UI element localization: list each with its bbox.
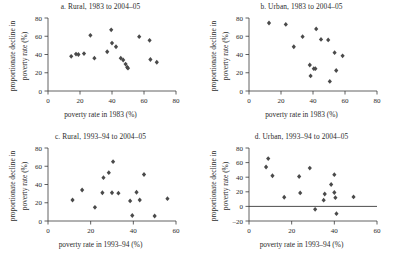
- panel-a-rural-1983: a. Rural, 1983 to 2004–05 proportionate …: [0, 0, 201, 130]
- svg-text:40: 40: [310, 97, 318, 105]
- panel-c-plot-area: 80 60 40 20 0 0 20 40 60: [0, 130, 201, 245]
- data-point-marker: [114, 44, 118, 49]
- data-point-marker: [267, 21, 271, 26]
- data-point-marker: [107, 170, 111, 175]
- svg-text:0: 0: [247, 97, 251, 105]
- data-point-marker: [323, 192, 327, 197]
- svg-text:0: 0: [240, 203, 244, 211]
- svg-text:0: 0: [247, 227, 251, 235]
- panel-b-axes: 80 60 40 20 0 0 20 40 60 80: [236, 15, 381, 106]
- data-point-marker: [309, 74, 313, 79]
- svg-text:80: 80: [35, 145, 43, 153]
- svg-text:20: 20: [288, 227, 296, 235]
- data-point-marker: [165, 196, 169, 201]
- svg-text:60: 60: [35, 163, 43, 171]
- svg-text:40: 40: [236, 51, 244, 59]
- panel-a-x-axis-title: poverty rate in 1983 (%): [0, 110, 201, 119]
- panel-b-data-points: [267, 21, 345, 84]
- svg-text:0: 0: [46, 97, 50, 105]
- svg-text:0: 0: [240, 88, 244, 96]
- data-point-marker: [116, 191, 120, 196]
- svg-text:60: 60: [342, 97, 350, 105]
- data-point-marker: [93, 205, 97, 210]
- panel-d-plot-area: 80 60 40 20 0 –20 0 20 40 60: [201, 130, 402, 245]
- svg-text:80: 80: [236, 145, 244, 153]
- svg-text:40: 40: [35, 181, 43, 189]
- panel-b-x-axis-title: poverty rate in 1983 (%): [201, 110, 402, 119]
- svg-text:60: 60: [173, 227, 181, 235]
- svg-text:0: 0: [46, 227, 50, 235]
- data-point-marker: [264, 165, 268, 170]
- data-point-marker: [329, 182, 333, 187]
- data-point-marker: [333, 195, 337, 200]
- data-point-marker: [282, 195, 286, 200]
- data-point-marker: [110, 190, 114, 195]
- data-point-marker: [137, 34, 141, 39]
- data-point-marker: [313, 207, 317, 212]
- data-point-marker: [314, 27, 318, 32]
- panel-c-rural-1993: c. Rural, 1993–94 to 2004–05 proportiona…: [0, 130, 201, 260]
- data-point-marker: [332, 172, 336, 177]
- svg-text:80: 80: [173, 97, 181, 105]
- panel-b-urban-1983: b. Urban, 1983 to 2004–05 proportionate …: [201, 0, 402, 130]
- data-point-marker: [332, 190, 336, 195]
- panel-d-axes: 80 60 40 20 0 –20 0 20 40 60: [232, 145, 382, 236]
- svg-text:20: 20: [35, 69, 43, 77]
- svg-text:40: 40: [109, 97, 117, 105]
- data-point-marker: [297, 174, 301, 179]
- panel-c-data-points: [70, 159, 169, 218]
- svg-text:20: 20: [35, 199, 43, 207]
- panel-a-data-points: [69, 27, 159, 70]
- data-point-marker: [308, 63, 312, 68]
- panel-c-axes: 80 60 40 20 0 0 20 40 60: [35, 145, 180, 236]
- data-point-marker: [138, 198, 142, 203]
- data-point-marker: [111, 159, 115, 164]
- panel-c-x-axis-title: poverty rate in 1993–94 (%): [0, 240, 201, 249]
- svg-text:40: 40: [331, 227, 339, 235]
- data-point-marker: [82, 51, 86, 56]
- panel-d-x-axis-title: poverty rate in 1993–94 (%): [201, 240, 402, 249]
- svg-text:20: 20: [278, 97, 286, 105]
- svg-text:80: 80: [236, 15, 244, 23]
- svg-text:60: 60: [236, 159, 244, 167]
- data-point-marker: [110, 41, 114, 46]
- data-point-marker: [334, 68, 338, 73]
- panel-a-axes: 80 60 40 20 0 0 20 40 60 80: [35, 15, 180, 106]
- svg-text:60: 60: [236, 33, 244, 41]
- data-point-marker: [284, 22, 288, 27]
- data-point-marker: [109, 27, 113, 32]
- data-point-marker: [130, 213, 134, 218]
- data-point-marker: [69, 54, 73, 59]
- data-point-marker: [134, 190, 138, 195]
- data-point-marker: [128, 199, 132, 204]
- data-point-marker: [328, 79, 332, 84]
- data-point-marker: [88, 33, 92, 38]
- svg-text:60: 60: [35, 33, 43, 41]
- data-point-marker: [334, 211, 338, 216]
- data-point-marker: [101, 175, 105, 180]
- svg-text:60: 60: [374, 227, 382, 235]
- svg-text:20: 20: [236, 69, 244, 77]
- data-point-marker: [142, 172, 146, 177]
- data-point-marker: [92, 56, 96, 61]
- data-point-marker: [148, 38, 152, 43]
- panel-a-plot-area: 80 60 40 20 0 0 20 40 60 80: [0, 0, 201, 115]
- data-point-marker: [301, 34, 305, 39]
- svg-text:40: 40: [130, 227, 138, 235]
- svg-text:0: 0: [39, 88, 43, 96]
- data-point-marker: [80, 188, 84, 193]
- svg-text:–20: –20: [232, 218, 244, 226]
- data-point-marker: [155, 60, 159, 65]
- data-point-marker: [70, 198, 74, 203]
- svg-text:80: 80: [35, 15, 43, 23]
- svg-text:40: 40: [236, 174, 244, 182]
- data-point-marker: [298, 190, 302, 195]
- data-point-marker: [322, 198, 326, 203]
- svg-text:60: 60: [141, 97, 149, 105]
- data-point-marker: [270, 173, 274, 178]
- data-point-marker: [148, 57, 152, 62]
- data-point-marker: [341, 53, 345, 58]
- data-point-marker: [326, 37, 330, 42]
- svg-text:0: 0: [39, 218, 43, 226]
- data-point-marker: [351, 194, 355, 199]
